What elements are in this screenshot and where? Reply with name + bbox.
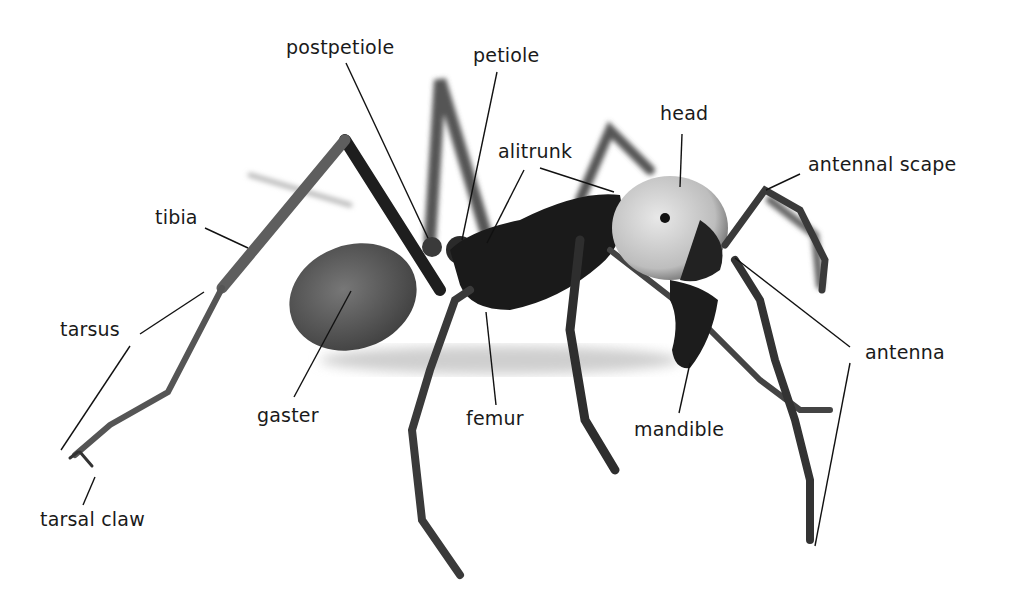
label-tarsal-claw: tarsal claw [40,508,145,530]
leader-tarsus-1 [140,292,204,334]
leader-antennal-scape [766,174,800,190]
leader-tarsal-claw [83,477,95,505]
leader-antenna-1 [735,258,850,347]
label-antenna: antenna [865,341,945,363]
label-tarsus: tarsus [60,318,120,340]
label-postpetiole: postpetiole [286,36,394,58]
label-gaster: gaster [257,404,319,426]
leader-alitrunk-2 [540,168,614,192]
ant-illustration [0,0,1010,613]
label-tibia: tibia [155,206,198,228]
leader-antenna-2 [815,363,850,546]
label-head: head [660,102,708,124]
label-alitrunk: alitrunk [498,140,572,162]
leader-tibia [205,228,248,248]
ant-anatomy-diagram: postpetiole petiole head alitrunk antenn… [0,0,1010,613]
label-petiole: petiole [473,44,539,66]
leader-mandible [679,363,690,413]
shadow [320,346,680,374]
antennae [725,190,825,540]
mandible-body [670,280,718,368]
eye [660,213,670,223]
label-mandible: mandible [634,418,724,440]
label-antennal-scape: antennal scape [808,153,956,175]
label-femur: femur [466,407,524,429]
